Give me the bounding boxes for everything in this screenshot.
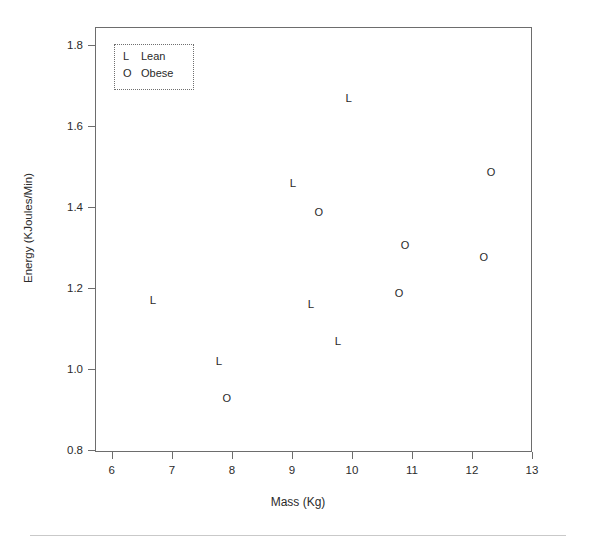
datapoint-lean: L: [150, 295, 156, 307]
datapoint-obese: O: [223, 393, 232, 404]
legend-entry-obese: O Obese: [123, 67, 193, 84]
x-tick-mark: [352, 452, 353, 459]
datapoint-lean: L: [216, 356, 222, 368]
y-tick-label: 1.4: [49, 201, 83, 213]
datapoint-lean: L: [290, 178, 296, 190]
datapoint-obese: O: [395, 288, 404, 299]
x-axis-title: Mass (Kg): [0, 495, 596, 509]
page-separator-rule: [30, 535, 566, 536]
y-tick-label: 0.8: [49, 444, 83, 456]
plot-area-frame: LLLLLLOOOOOO L Lean O Obese: [95, 27, 532, 452]
legend-entry-lean: L Lean: [123, 50, 193, 67]
x-tick-mark: [172, 452, 173, 459]
x-tick-label: 8: [229, 464, 235, 476]
x-tick-label: 9: [289, 464, 295, 476]
y-tick-label: 1.8: [49, 39, 83, 51]
y-tick-label: 1.0: [49, 363, 83, 375]
datapoint-obese: O: [401, 239, 410, 250]
x-tick-mark: [412, 452, 413, 459]
y-tick-mark: [88, 126, 95, 127]
legend-symbol-lean: L: [123, 50, 141, 62]
y-tick-mark: [88, 369, 95, 370]
x-tick-mark: [472, 452, 473, 459]
datapoint-obese: O: [479, 251, 488, 262]
datapoint-lean: L: [308, 300, 314, 312]
data-points-layer: LLLLLLOOOOOO: [96, 28, 531, 451]
x-tick-label: 6: [109, 464, 115, 476]
y-tick-mark: [88, 45, 95, 46]
x-tick-mark: [232, 452, 233, 459]
y-tick-label: 1.2: [49, 282, 83, 294]
y-tick-mark: [88, 450, 95, 451]
x-tick-mark: [532, 452, 533, 459]
x-tick-label: 10: [346, 464, 359, 476]
x-tick-label: 12: [466, 464, 479, 476]
datapoint-obese: O: [314, 207, 323, 218]
datapoint-lean: L: [346, 93, 352, 105]
datapoint-lean: L: [335, 336, 341, 348]
scatter-plot-figure: LLLLLLOOOOOO L Lean O Obese 678910111213…: [0, 0, 596, 555]
y-tick-mark: [88, 288, 95, 289]
x-tick-label: 7: [169, 464, 175, 476]
y-tick-label: 1.6: [49, 120, 83, 132]
x-tick-label: 11: [406, 464, 418, 476]
x-tick-label: 13: [526, 464, 539, 476]
legend-symbol-obese: O: [123, 67, 141, 79]
y-tick-mark: [88, 207, 95, 208]
x-tick-mark: [292, 452, 293, 459]
datapoint-obese: O: [487, 166, 496, 177]
y-axis-title: Energy (KJoules/Min): [22, 138, 34, 318]
legend-label-obese: Obese: [141, 67, 173, 79]
x-tick-mark: [112, 452, 113, 459]
legend-box: L Lean O Obese: [114, 44, 194, 90]
legend-label-lean: Lean: [141, 50, 165, 62]
